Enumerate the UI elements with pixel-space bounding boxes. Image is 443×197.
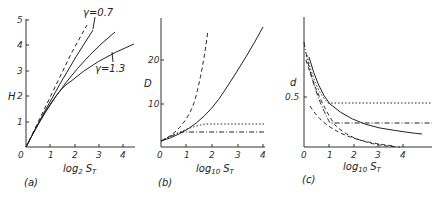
tick-y: 2 (17, 91, 23, 101)
figure: 1 2 3 4 5 0 1 2 3 4 H log2ST (a) γ=0.7 γ… (0, 0, 443, 197)
curve-c-dashdot (304, 42, 432, 123)
tick-y: 5 (17, 15, 23, 25)
tick-x: 0 (301, 150, 307, 160)
tick-x: 1 (184, 150, 190, 160)
tick-x: 4 (400, 150, 406, 160)
tick-x: 2 (209, 150, 215, 160)
tick-x: 3 (375, 150, 381, 160)
curve-b-dashed (161, 30, 208, 141)
tick-y: 20 (148, 55, 160, 65)
annotation-gamma-07: γ=0.7 (83, 7, 114, 18)
tick-y: 0.5 (285, 92, 300, 102)
arrow (93, 17, 95, 29)
tick-y: 3 (17, 66, 23, 76)
tick-x: 0 (157, 150, 163, 160)
y-label-a: H (8, 91, 16, 102)
curve-c-solid (309, 57, 422, 134)
tick-x: 1 (327, 150, 333, 160)
curve-c-dotted (307, 55, 432, 103)
curve-a-gamma13 (26, 44, 134, 147)
curve-a-gamma10 (26, 32, 115, 147)
tick-x: 1 (48, 150, 54, 160)
panel-label-a: (a) (24, 177, 38, 188)
tick-y: 4 (17, 40, 23, 50)
tick-x: 3 (235, 150, 241, 160)
tick-y: 1 (17, 117, 23, 127)
tick-x: 2 (72, 150, 78, 160)
annotation-gamma-13: γ=1.3 (95, 63, 125, 74)
curve-a-gamma07 (26, 30, 93, 147)
tick-y: 10 (148, 99, 160, 109)
tick-x: 4 (260, 150, 266, 160)
y-label-b: D (144, 78, 152, 89)
curve-c-dashed-lower (310, 106, 395, 146)
y-label-c: d (290, 77, 297, 88)
tick-x: 4 (120, 150, 126, 160)
x-label-a: log2ST (63, 163, 97, 176)
curve-b-solid (161, 27, 263, 141)
panel-c: 0.5 0 1 2 3 4 d log10ST (c) (285, 17, 432, 185)
tick-x: 3 (96, 150, 102, 160)
tick-x: 0 (18, 150, 24, 160)
panel-label-b: (b) (158, 177, 172, 188)
x-label-b: log10ST (196, 163, 235, 176)
panel-a: 1 2 3 4 5 0 1 2 3 4 H log2ST (a) γ=0.7 γ… (8, 7, 135, 188)
tick-x: 2 (351, 150, 357, 160)
curve-b-dashdot (161, 132, 264, 141)
panel-b: 10 20 0 1 2 3 4 D log10ST (b) (144, 18, 266, 188)
panel-label-c: (c) (302, 174, 315, 185)
x-label-c: log10ST (343, 161, 382, 174)
